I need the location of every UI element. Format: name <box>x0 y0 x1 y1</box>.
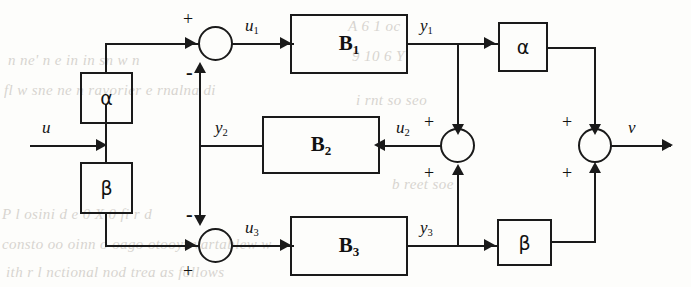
beta-out-wire <box>552 241 596 243</box>
background-text-line: i rnt so seo <box>356 92 427 109</box>
y2-up-branch-wire <box>199 70 201 145</box>
summing-junction-bottom <box>198 228 233 263</box>
plant-block-label: B2 <box>311 132 332 159</box>
alpha-to-top-rail-wire <box>105 44 107 74</box>
arrow-right-icon <box>185 239 196 251</box>
gain-block-label: α <box>100 87 113 109</box>
arrow-up-icon <box>452 164 464 175</box>
input-wire <box>30 145 100 147</box>
sign-plus: + <box>562 113 572 131</box>
sign-plus: + <box>183 10 193 28</box>
alpha-out-wire <box>548 47 596 49</box>
arrow-down-icon <box>194 215 206 226</box>
plant-block-b3: B3 <box>290 216 408 276</box>
sign-minus: - <box>186 204 193 224</box>
signal-label-u: u <box>42 118 51 138</box>
gain-block-beta-output: β <box>497 219 552 266</box>
background-text-line: b reet soe <box>392 176 454 193</box>
arrow-right-icon <box>484 37 495 49</box>
y3-branch-up-wire <box>457 172 459 246</box>
alpha-out-down-wire <box>594 47 596 127</box>
sign-plus: + <box>183 262 193 280</box>
arrow-up-icon <box>589 162 601 173</box>
y2-down-branch-wire <box>199 145 201 217</box>
arrow-up-icon <box>194 62 206 73</box>
arrow-right-icon <box>185 37 196 49</box>
signal-label-y1: y1 <box>420 16 433 36</box>
y1-branch-down-wire <box>457 43 459 127</box>
summing-junction-output <box>578 128 612 163</box>
sign-plus: + <box>424 113 434 131</box>
arrow-right-icon <box>484 239 495 251</box>
signal-label-v: v <box>628 118 636 138</box>
gain-block-beta-input: β <box>80 162 133 214</box>
gain-block-alpha-output: α <box>498 22 548 72</box>
plant-block-label: B3 <box>339 233 360 260</box>
gain-block-alpha-input: α <box>80 72 133 124</box>
sign-plus: + <box>562 164 572 182</box>
plant-block-b1: B1 <box>290 14 408 74</box>
gain-block-label: β <box>100 177 112 199</box>
u2-wire <box>378 145 441 147</box>
sign-plus: + <box>424 164 434 182</box>
summing-junction-top <box>198 26 233 61</box>
summing-junction-middle <box>440 128 475 163</box>
plant-block-label: B1 <box>339 31 360 58</box>
signal-label-y2: y2 <box>215 118 228 138</box>
sign-minus: - <box>186 62 193 82</box>
signal-label-u1: u1 <box>245 16 259 36</box>
signal-label-u2: u2 <box>396 118 410 138</box>
gain-block-label: β <box>518 232 530 254</box>
background-text-line: n ne' n e in in sn w n <box>8 52 140 69</box>
beta-to-bottom-rail-wire <box>105 212 107 247</box>
plant-block-b2: B2 <box>262 116 380 174</box>
beta-out-up-wire <box>594 170 596 242</box>
signal-label-y3: y3 <box>420 218 433 238</box>
arrow-right-icon <box>662 139 673 151</box>
figure-canvas: n ne' n e in in sn w n fl w sne ne n rav… <box>0 0 691 287</box>
signal-label-u3: u3 <box>245 218 259 238</box>
y2-wire <box>199 145 263 147</box>
gain-block-label: α <box>517 36 530 58</box>
